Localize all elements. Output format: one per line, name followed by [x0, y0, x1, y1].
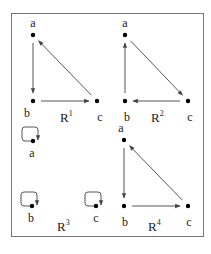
loop-a	[22, 127, 38, 141]
relation-label: R3	[57, 218, 70, 234]
edge-a-to-c	[131, 41, 183, 95]
node-a	[123, 33, 127, 37]
node-b	[31, 99, 35, 103]
node-b	[123, 99, 127, 103]
relation-r4: abcR4	[118, 121, 191, 234]
node-c	[94, 204, 98, 208]
node-a	[31, 33, 35, 37]
relation-r1: abcR1	[24, 16, 103, 125]
edge-c-to-a	[130, 146, 183, 201]
relations-diagram: abcR1abcR2abcR3abcR4	[0, 0, 211, 254]
node-b	[30, 204, 34, 208]
relation-r3: abcR3	[21, 127, 101, 234]
node-c	[186, 204, 190, 208]
figure-border	[12, 14, 204, 237]
node-c	[186, 99, 190, 103]
node-label-a: a	[122, 16, 128, 30]
node-b	[122, 204, 126, 208]
node-label-a: a	[30, 16, 36, 30]
node-a	[31, 139, 35, 143]
relation-r2: abcR2	[122, 16, 192, 125]
node-label-b: b	[24, 106, 30, 120]
node-a	[122, 138, 126, 142]
node-label-c: c	[93, 211, 98, 225]
relation-label: R2	[151, 109, 164, 125]
relation-label: R4	[148, 218, 161, 234]
node-label-c: c	[97, 110, 102, 124]
relation-label: R1	[60, 109, 73, 125]
loop-b	[21, 192, 37, 206]
graphs-layer: abcR1abcR2abcR3abcR4	[21, 16, 193, 234]
loop-c	[85, 192, 101, 206]
node-label-c: c	[186, 215, 191, 229]
node-label-b: b	[28, 211, 34, 225]
node-label-c: c	[187, 110, 192, 124]
node-label-a: a	[29, 146, 35, 160]
node-label-b: b	[124, 110, 130, 124]
edge-c-to-a	[39, 41, 92, 96]
node-label-b: b	[122, 215, 128, 229]
node-c	[95, 99, 99, 103]
node-label-a: a	[118, 121, 124, 135]
